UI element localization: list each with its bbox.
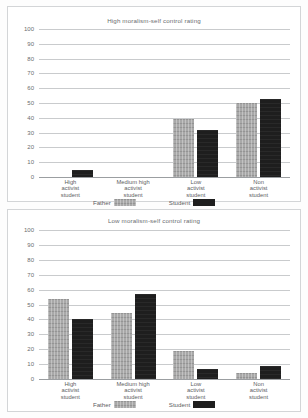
y-axis-tick-50: 50 bbox=[10, 100, 34, 106]
y-axis-tick-90: 90 bbox=[10, 41, 34, 47]
y-axis-tick-10: 10 bbox=[10, 159, 34, 165]
bar-series-low-moralism bbox=[39, 230, 290, 379]
x-axis-label-3: Nonactiviststudent bbox=[227, 381, 290, 400]
x-axis-label-1: Medium highactiviststudent bbox=[102, 381, 165, 400]
legend-item-father[interactable]: Father bbox=[93, 199, 136, 206]
x-axis-label-2: Lowactiviststudent bbox=[165, 381, 228, 400]
y-axis-tick-0: 0 bbox=[10, 174, 34, 180]
bar-series-high-moralism bbox=[39, 29, 290, 177]
chart-title-high-moralism: High moralism-self control rating bbox=[8, 17, 300, 24]
bar-student-0[interactable] bbox=[72, 319, 93, 379]
bar-father-1[interactable] bbox=[111, 313, 132, 379]
x-axis-label-2: Lowactiviststudent bbox=[165, 179, 228, 198]
x-axis-label-line: student bbox=[227, 394, 290, 400]
x-axis-label-1: Medium highactiviststudent bbox=[102, 179, 165, 198]
x-axis-label-0: Highactiviststudent bbox=[39, 381, 102, 400]
legend-label: Student bbox=[169, 199, 190, 206]
legend-high-moralism: FatherStudent bbox=[8, 199, 300, 206]
bar-father-2[interactable] bbox=[173, 351, 194, 379]
y-axis-tick-50: 50 bbox=[10, 302, 34, 308]
legend-label: Student bbox=[169, 401, 190, 408]
x-axis-label-3: Nonactiviststudent bbox=[227, 179, 290, 198]
y-axis-tick-60: 60 bbox=[10, 287, 34, 293]
y-axis-tick-10: 10 bbox=[10, 361, 34, 367]
bar-group bbox=[165, 230, 228, 379]
y-axis-tick-60: 60 bbox=[10, 85, 34, 91]
y-axis-tick-90: 90 bbox=[10, 242, 34, 248]
chart-title-low-moralism: Low moralism-self control rating bbox=[8, 217, 300, 224]
legend-swatch-father bbox=[114, 199, 136, 206]
legend-low-moralism: FatherStudent bbox=[8, 401, 300, 408]
bar-student-2[interactable] bbox=[197, 369, 218, 379]
gridline-0 bbox=[39, 177, 290, 178]
y-axis-tick-20: 20 bbox=[10, 346, 34, 352]
y-axis-tick-100: 100 bbox=[10, 227, 34, 233]
legend-swatch-father bbox=[114, 401, 136, 408]
y-axis-tick-0: 0 bbox=[10, 376, 34, 382]
bar-student-3[interactable] bbox=[260, 99, 281, 177]
x-axis-labels-high-moralism: HighactiviststudentMedium highactivistst… bbox=[39, 179, 290, 198]
x-axis-label-line: student bbox=[39, 192, 102, 198]
y-axis-tick-70: 70 bbox=[10, 272, 34, 278]
bar-father-2[interactable] bbox=[173, 119, 194, 177]
x-axis-label-line: student bbox=[165, 394, 228, 400]
x-axis-label-line: student bbox=[102, 394, 165, 400]
bar-group bbox=[165, 29, 228, 177]
legend-swatch-student bbox=[193, 199, 215, 206]
legend-item-student[interactable]: Student bbox=[169, 401, 215, 408]
bar-group bbox=[39, 230, 102, 379]
y-axis-tick-100: 100 bbox=[10, 26, 34, 32]
bar-group bbox=[102, 230, 165, 379]
bar-student-3[interactable] bbox=[260, 366, 281, 379]
bar-father-3[interactable] bbox=[236, 103, 257, 177]
legend-item-student[interactable]: Student bbox=[169, 199, 215, 206]
x-axis-labels-low-moralism: HighactiviststudentMedium highactivistst… bbox=[39, 381, 290, 400]
chart-panel-high-moralism: High moralism-self control rating 100908… bbox=[7, 6, 301, 202]
bar-group bbox=[227, 230, 290, 379]
bar-student-1[interactable] bbox=[135, 294, 156, 379]
gridline-0 bbox=[39, 379, 290, 380]
bar-father-3[interactable] bbox=[236, 373, 257, 379]
y-axis-tick-80: 80 bbox=[10, 56, 34, 62]
plot-area-low-moralism: 1009080706050403020100 bbox=[39, 230, 290, 379]
bar-group bbox=[227, 29, 290, 177]
x-axis-label-line: student bbox=[227, 192, 290, 198]
x-axis-label-line: student bbox=[39, 394, 102, 400]
bar-student-2[interactable] bbox=[197, 130, 218, 177]
bar-student-0[interactable] bbox=[72, 170, 93, 177]
y-axis-tick-80: 80 bbox=[10, 257, 34, 263]
y-axis-tick-30: 30 bbox=[10, 331, 34, 337]
y-axis-tick-30: 30 bbox=[10, 130, 34, 136]
chart-panel-low-moralism: Low moralism-self control rating 1009080… bbox=[7, 209, 301, 412]
y-axis-tick-40: 40 bbox=[10, 316, 34, 322]
y-axis-tick-40: 40 bbox=[10, 115, 34, 121]
legend-label: Father bbox=[93, 401, 111, 408]
y-axis-tick-20: 20 bbox=[10, 144, 34, 150]
bar-group bbox=[102, 29, 165, 177]
x-axis-label-line: student bbox=[165, 192, 228, 198]
plot-area-high-moralism: 1009080706050403020100 bbox=[39, 29, 290, 177]
legend-item-father[interactable]: Father bbox=[93, 401, 136, 408]
bar-group bbox=[39, 29, 102, 177]
y-axis-tick-70: 70 bbox=[10, 70, 34, 76]
bar-father-0[interactable] bbox=[48, 299, 69, 379]
legend-label: Father bbox=[93, 199, 111, 206]
x-axis-label-0: Highactiviststudent bbox=[39, 179, 102, 198]
figure-page: High moralism-self control rating 100908… bbox=[0, 0, 308, 418]
x-axis-label-line: student bbox=[102, 192, 165, 198]
legend-swatch-student bbox=[193, 401, 215, 408]
